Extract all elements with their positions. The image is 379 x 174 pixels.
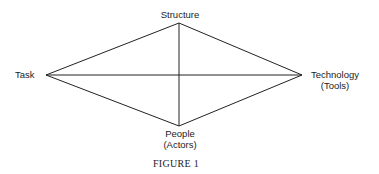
figure-caption: FIGURE 1 — [153, 158, 199, 169]
node-people-label: People — [154, 128, 206, 139]
node-task-label: Task — [15, 69, 41, 80]
node-structure-label: Structure — [154, 9, 206, 20]
node-people-sublabel: (Actors) — [154, 139, 206, 150]
node-technology-label: Technology — [304, 69, 366, 80]
node-technology-sublabel: (Tools) — [304, 80, 366, 91]
